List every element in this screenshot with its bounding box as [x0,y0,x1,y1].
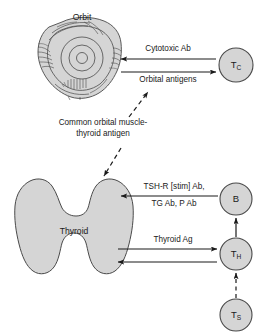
arrow-common-antigen-down [104,148,121,176]
common-antigen-line1: Common orbital muscle- [22,118,184,128]
cell-tc-label: TC [222,59,250,70]
cell-th-letter: T [231,248,237,259]
tshr-ab-line2: TG Ab, P Ab [122,199,226,209]
orbit-illustration [38,17,121,100]
cell-ts-letter: T [231,309,237,320]
cell-th-sub: H [237,253,242,260]
thyroid-ag-label: Thyroid Ag [124,235,222,245]
thyroid-label: Thyroid [20,226,128,236]
cell-tc-sub: C [237,64,242,71]
cell-b-label: B [222,193,250,204]
cell-b-letter: B [233,193,239,204]
tshr-ab-line1: TSH-R [stim] Ab, [122,182,226,192]
cell-ts-label: TS [222,309,250,320]
orbital-antigens-label: Orbital antigens [114,75,222,85]
cell-th-label: TH [222,248,250,259]
orbit-label: Orbit [0,12,164,22]
common-antigen-line2: thyroid antigen [22,129,184,139]
cell-ts-sub: S [237,314,241,321]
cytotoxic-ab-label: Cytotoxic Ab [118,44,218,54]
cell-tc-letter: T [231,59,237,70]
arrow-common-antigen-up [129,92,148,117]
